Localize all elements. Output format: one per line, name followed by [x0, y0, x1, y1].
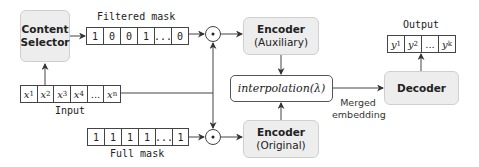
full-mask-cell: 1 [88, 129, 105, 145]
interpolation-node: interpolation(λ) [230, 75, 333, 102]
input-cell: x3 [54, 86, 71, 102]
filtered-mask-cell: 0 [172, 28, 188, 44]
content-selector-node: Content Selector [20, 10, 70, 62]
output-cell: ... [422, 36, 439, 52]
encoder-aux-title: Encoder [257, 23, 305, 36]
output-cell: y2 [405, 36, 422, 52]
full-mask-label: Full mask [110, 148, 164, 159]
merged-label-line1: Merged [332, 97, 384, 109]
filtered-mask-cell: 0 [121, 28, 138, 44]
elementwise-product-top [206, 27, 221, 42]
output-cell: y1 [388, 36, 405, 52]
input-cell: x2 [38, 86, 55, 102]
filtered-mask-cell: 1 [138, 28, 155, 44]
input-cell: x1 [21, 86, 38, 102]
output-cell: yk [439, 36, 455, 52]
filtered-mask-label: Filtered mask [97, 11, 175, 22]
decoder-title: Decoder [397, 82, 446, 95]
full-mask-cell: 1 [105, 129, 122, 145]
input-cell: ... [88, 86, 105, 102]
input-cell: xn [104, 86, 120, 102]
full-mask-cell: 1 [122, 129, 139, 145]
filtered-mask-cell: 1 [87, 28, 104, 44]
encoder-auxiliary-node: Encoder (Auxiliary) [243, 17, 319, 55]
merged-embedding-label: Merged embedding [332, 97, 384, 121]
full-mask-cell: 1 [173, 129, 188, 145]
encoder-original-node: Encoder (Original) [243, 120, 319, 158]
encoder-orig-subtitle: (Original) [256, 139, 305, 152]
input-cell: x4 [71, 86, 88, 102]
input-array: x1 x2 x3 x4 ... xn [20, 85, 121, 103]
content-selector-label-1: Content [21, 23, 68, 36]
filtered-mask-cell: 0 [104, 28, 121, 44]
encoder-aux-subtitle: (Auxiliary) [254, 36, 308, 49]
full-mask-cell: 1 [139, 129, 156, 145]
full-mask-array: 1 1 1 1 ... 1 [87, 128, 189, 146]
encoder-orig-title: Encoder [257, 126, 305, 139]
output-array: y1 y2 ... yk [387, 35, 456, 53]
elementwise-product-bottom [206, 130, 221, 145]
filtered-mask-array: 1 0 0 1 ... 0 [86, 27, 189, 45]
filtered-mask-cell: ... [155, 28, 172, 44]
input-label: Input [55, 105, 85, 116]
full-mask-cell: ... [156, 129, 173, 145]
content-selector-label-2: Selector [20, 36, 69, 49]
output-label: Output [403, 19, 439, 30]
merged-label-line2: embedding [332, 109, 384, 121]
decoder-node: Decoder [384, 71, 459, 105]
